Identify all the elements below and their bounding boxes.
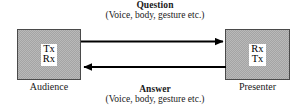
- node-audience-box: Tx Rx: [17, 29, 81, 80]
- answer-edge-caption: Answer (Voice, body, gesture etc.): [72, 85, 238, 105]
- node-presenter-ports: Rx Tx: [249, 44, 265, 66]
- node-audience-port-rx: Rx: [43, 54, 55, 65]
- answer-subtitle: (Voice, body, gesture etc.): [72, 95, 238, 105]
- node-audience-label: Audience: [17, 81, 81, 92]
- node-audience-ports: Tx Rx: [41, 44, 57, 66]
- node-audience: Tx Rx Audience: [17, 29, 81, 80]
- node-presenter: Rx Tx Presenter: [225, 29, 290, 80]
- question-edge-caption: Question (Voice, body, gesture etc.): [72, 1, 238, 21]
- node-presenter-port-tx: Tx: [251, 54, 263, 65]
- node-presenter-box: Rx Tx: [225, 29, 290, 80]
- question-subtitle: (Voice, body, gesture etc.): [72, 11, 238, 21]
- question-title: Question: [72, 1, 238, 11]
- node-presenter-label: Presenter: [225, 81, 290, 92]
- diagram-canvas: Question (Voice, body, gesture etc.) Ans…: [0, 0, 307, 111]
- answer-title: Answer: [72, 85, 238, 95]
